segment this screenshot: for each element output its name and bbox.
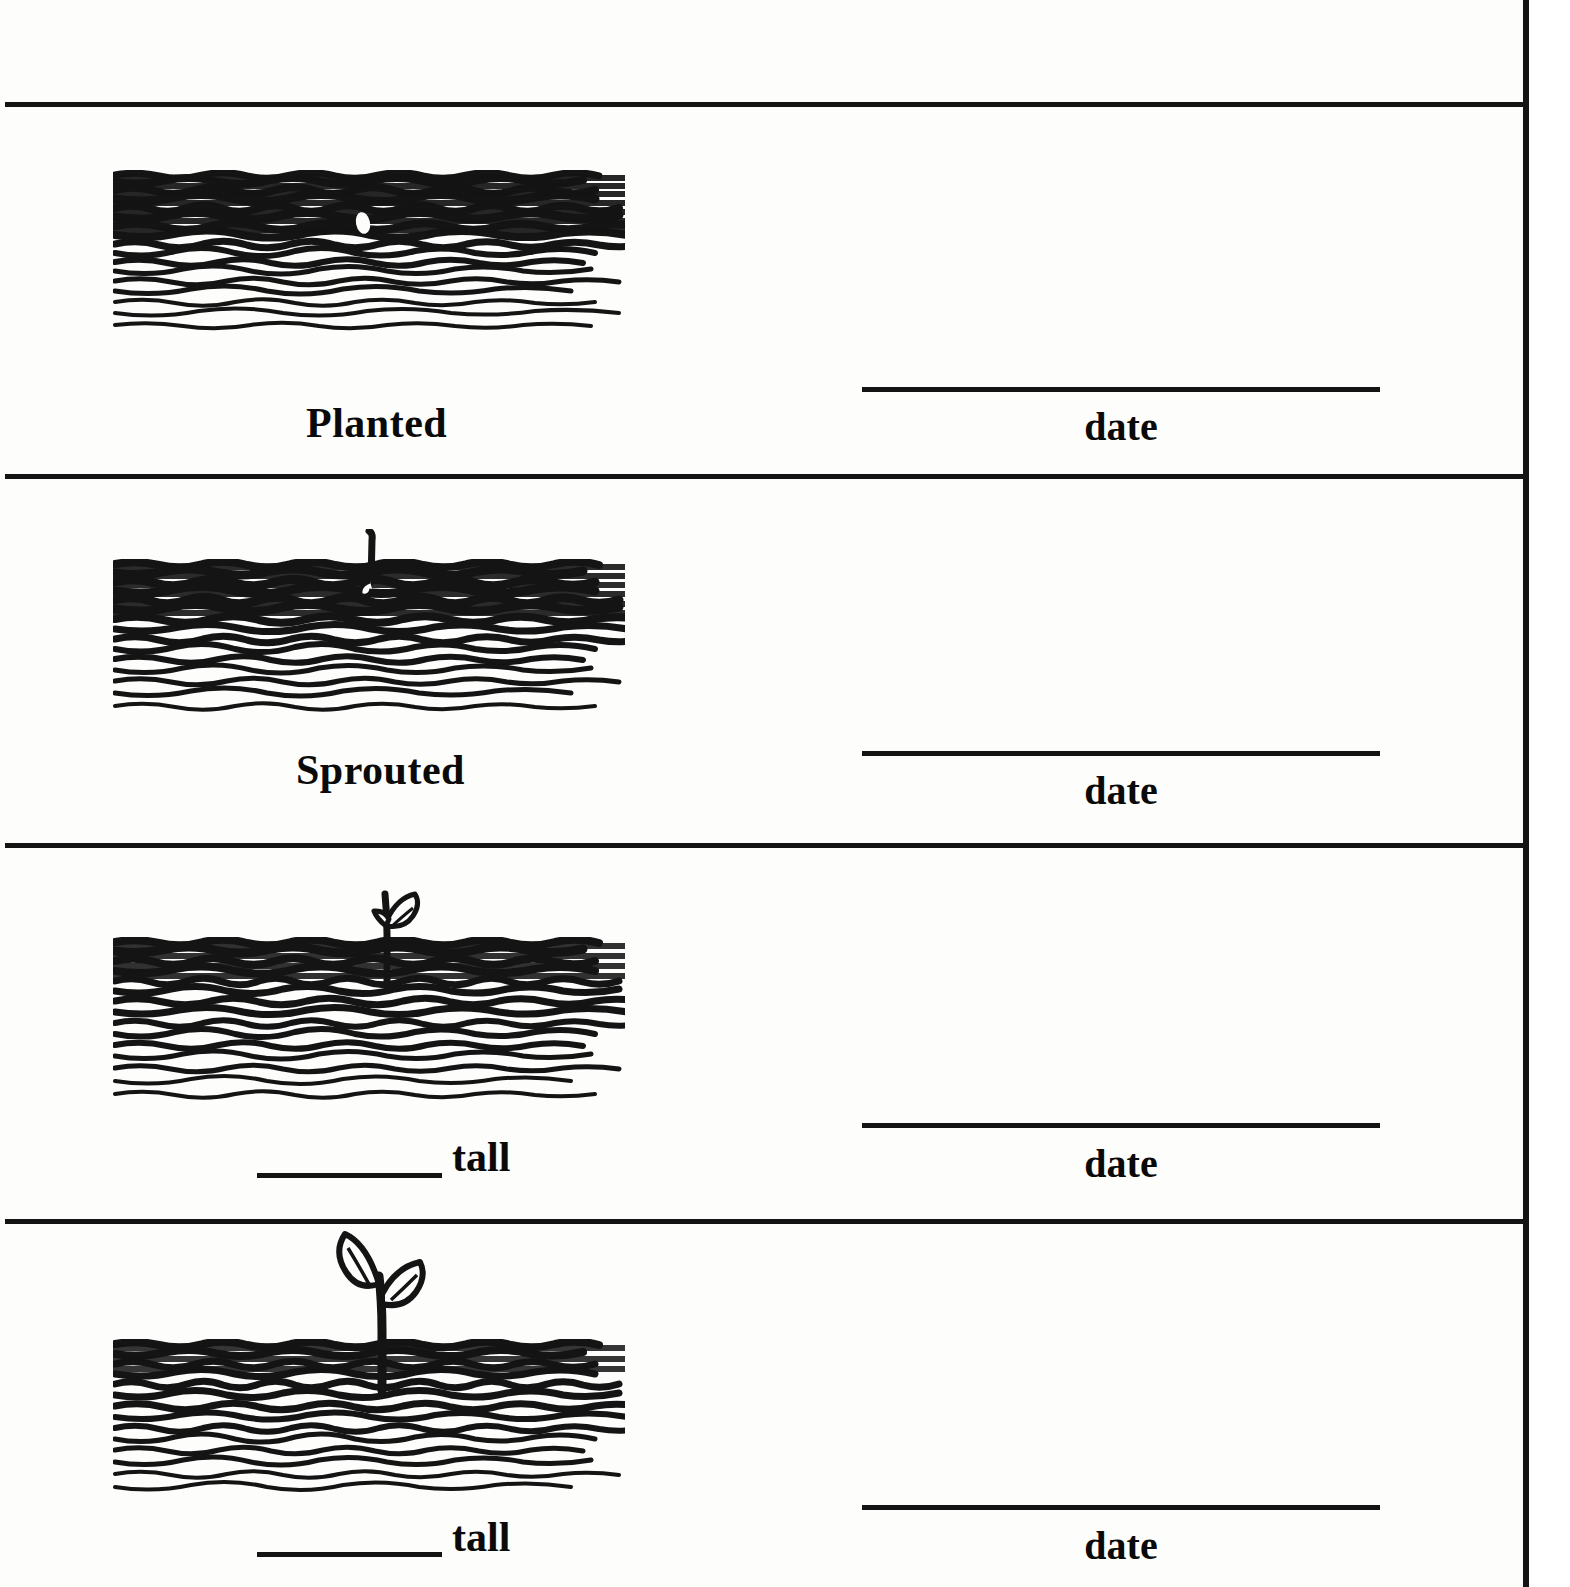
date-blank-line-sprouted[interactable]: [862, 751, 1380, 756]
height-blank-line-seedling-large[interactable]: [257, 1552, 442, 1557]
panel-planted: Planted date: [0, 107, 1523, 474]
measure-suffix-seedling-large: tall: [452, 1516, 510, 1558]
seedling-large-illustration: [318, 1224, 458, 1394]
sprout-illustration: [348, 529, 394, 613]
date-label-sprouted: date: [862, 771, 1380, 811]
worksheet-sheet: Planted date: [0, 0, 1570, 1587]
date-blank-line-seedling-small[interactable]: [862, 1123, 1380, 1128]
panel-seedling-small: tall date: [0, 848, 1523, 1219]
page-outside-margin: [1529, 0, 1570, 1587]
date-blank-line-seedling-large[interactable]: [862, 1505, 1380, 1510]
soil-illustration-planted: [113, 170, 625, 332]
measure-suffix-seedling-small: tall: [452, 1136, 510, 1178]
date-label-planted: date: [862, 407, 1380, 447]
panel-sprouted: Sprouted date: [0, 479, 1523, 843]
date-label-seedling-small: date: [862, 1144, 1380, 1184]
panel-seedling-large: tall date: [0, 1224, 1523, 1587]
date-blank-line-planted[interactable]: [862, 387, 1380, 392]
stage-label-sprouted: Sprouted: [296, 749, 465, 791]
stage-label-planted: Planted: [306, 402, 447, 444]
height-blank-line-seedling-small[interactable]: [257, 1173, 442, 1178]
seedling-small-illustration: [358, 878, 428, 988]
date-label-seedling-large: date: [862, 1526, 1380, 1566]
